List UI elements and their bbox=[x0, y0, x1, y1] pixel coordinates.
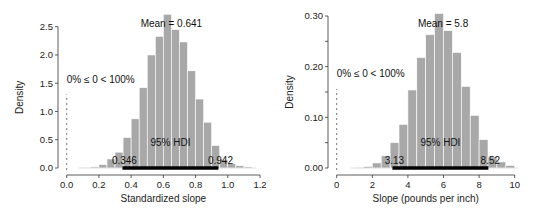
y-axis: 0.000.100.200.30 bbox=[305, 10, 329, 173]
x-tick-label: 2 bbox=[370, 179, 375, 190]
hdi-label: 95% HDI bbox=[150, 137, 190, 148]
y-tick-label: 0.20 bbox=[305, 61, 324, 72]
histogram-bar bbox=[147, 55, 155, 168]
histogram-bar bbox=[470, 115, 479, 168]
histogram-bar bbox=[408, 90, 417, 168]
histogram-bar bbox=[188, 71, 196, 168]
y-axis: 0.00.51.01.52.02.5 bbox=[40, 21, 58, 173]
histogram-bar bbox=[417, 58, 426, 168]
histogram-bar bbox=[236, 166, 244, 168]
y-axis-title: Density bbox=[284, 75, 295, 108]
histogram-bar bbox=[506, 165, 515, 168]
y-tick-label: 1.0 bbox=[40, 106, 53, 117]
histogram-bar bbox=[372, 163, 381, 168]
hdi-low-label: 0.346 bbox=[112, 155, 137, 166]
x-tick-label: 1.0 bbox=[221, 179, 234, 190]
x-tick-label: 4 bbox=[405, 179, 410, 190]
comparison-label: 0% ≤ 0 < 100% bbox=[337, 68, 405, 79]
x-tick-label: 10 bbox=[509, 179, 520, 190]
hdi-high-label: 8.52 bbox=[481, 155, 501, 166]
histogram-bar bbox=[99, 165, 107, 168]
x-tick-label: 0.8 bbox=[189, 179, 202, 190]
histogram-bar bbox=[452, 52, 461, 168]
y-tick-label: 2.5 bbox=[40, 21, 53, 32]
y-tick-label: 1.5 bbox=[40, 78, 53, 89]
x-tick-label: 6 bbox=[441, 179, 446, 190]
histogram-bar bbox=[196, 99, 204, 168]
x-axis-title: Slope (pounds per inch) bbox=[373, 193, 479, 204]
x-tick-label: 0.2 bbox=[92, 179, 105, 190]
x-axis: 0246810 bbox=[334, 175, 520, 190]
y-tick-label: 0.5 bbox=[40, 134, 53, 145]
x-tick-label: 0 bbox=[334, 179, 339, 190]
histogram-bar bbox=[155, 36, 163, 168]
y-tick-label: 0.0 bbox=[40, 162, 53, 173]
y-axis-title: Density bbox=[14, 81, 25, 114]
x-tick-label: 0.0 bbox=[60, 179, 73, 190]
x-tick-label: 0.6 bbox=[157, 179, 170, 190]
histogram-bar bbox=[179, 42, 187, 168]
x-tick-label: 8 bbox=[476, 179, 481, 190]
histogram-figure: 0.00.51.01.52.02.5 0.00.20.40.60.81.01.2… bbox=[0, 0, 534, 217]
histogram-bar bbox=[426, 35, 435, 168]
x-tick-label: 1.2 bbox=[253, 179, 266, 190]
mean-label: Mean = 0.641 bbox=[141, 18, 203, 29]
hdi-low-label: 3.13 bbox=[385, 155, 405, 166]
x-axis-title: Standardized slope bbox=[121, 193, 207, 204]
left-histogram-standardized-slope: 0.00.51.01.52.02.5 0.00.20.40.60.81.01.2… bbox=[14, 14, 267, 204]
histogram-bar bbox=[461, 86, 470, 168]
x-axis: 0.00.20.40.60.81.01.2 bbox=[60, 175, 267, 190]
mean-label: Mean = 5.8 bbox=[418, 18, 469, 29]
comparison-label: 0% ≤ 0 < 100% bbox=[67, 74, 135, 85]
histogram-bar bbox=[139, 88, 147, 168]
x-tick-label: 0.4 bbox=[125, 179, 138, 190]
hdi-label: 95% HDI bbox=[420, 137, 460, 148]
hdi-high-label: 0.942 bbox=[208, 155, 233, 166]
y-tick-label: 2.0 bbox=[40, 49, 53, 60]
y-tick-label: 0.30 bbox=[305, 10, 324, 21]
y-tick-label: 0.00 bbox=[305, 162, 324, 173]
right-histogram-slope-pounds-per-inch: 0.000.100.200.30 0246810 Slope (pounds p… bbox=[284, 10, 520, 204]
y-tick-label: 0.10 bbox=[305, 112, 324, 123]
